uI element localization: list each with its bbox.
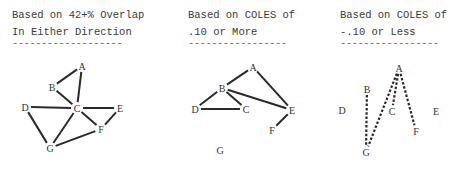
network-diagrams: ABCDEFGABCDEFGABCDEFG [0, 0, 453, 174]
edge-B-A [227, 70, 248, 84]
edge-A-C [78, 72, 82, 102]
edge-C-G [53, 113, 73, 143]
edge-C-F [82, 112, 97, 125]
edge-D-C [31, 107, 71, 108]
graph-panel-2: ABCDEFG [191, 62, 295, 156]
node-C: C [389, 106, 396, 117]
node-B: B [219, 83, 226, 94]
node-B: B [364, 84, 371, 95]
edge-B-A [57, 69, 77, 83]
node-A: A [249, 62, 257, 73]
node-F: F [413, 126, 419, 137]
node-G: G [216, 145, 223, 156]
node-D: D [191, 104, 198, 115]
node-A: A [395, 63, 403, 74]
edge-G-F [56, 131, 96, 146]
node-E: E [117, 103, 123, 114]
edge-A-F [401, 74, 415, 125]
node-G: G [46, 143, 53, 154]
node-G: G [362, 147, 369, 158]
node-E: E [433, 106, 439, 117]
edge-E-F [276, 114, 288, 126]
node-F: F [269, 125, 275, 136]
graph-panel-1: ABCDEFG [21, 61, 123, 154]
node-B: B [49, 82, 56, 93]
node-F: F [98, 124, 104, 135]
edge-D-G [28, 112, 47, 143]
node-C: C [74, 103, 81, 114]
edge-B-C [57, 91, 73, 104]
graph-panel-3: ABCDEFG [338, 63, 439, 158]
edge-B-G [366, 95, 367, 146]
node-D: D [338, 105, 345, 116]
node-C: C [243, 104, 250, 115]
node-D: D [21, 102, 28, 113]
node-E: E [289, 105, 295, 116]
edge-B-D [200, 92, 218, 106]
node-A: A [78, 61, 86, 72]
edge-E-F [105, 112, 116, 124]
